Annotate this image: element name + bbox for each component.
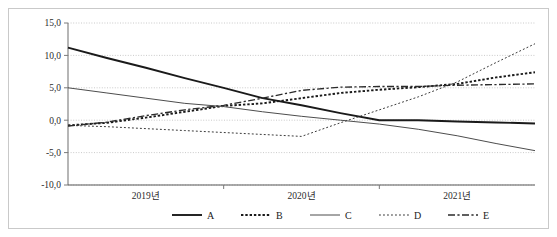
y-tick-label: -5,0	[46, 148, 61, 158]
y-tick-label: 15,0	[44, 18, 61, 28]
legend-label-b: B	[276, 210, 283, 221]
x-tick-label: 2020년	[288, 191, 316, 201]
series-group	[68, 44, 535, 151]
gridlines: 15,010,05,00,0-5,0-10,0	[41, 18, 535, 190]
legend-label-c: C	[345, 210, 352, 221]
y-tick-label: 5,0	[49, 83, 61, 93]
x-tick-label: 2021년	[443, 191, 471, 201]
legend-label-d: D	[414, 210, 421, 221]
x-axis-ticks: 2019년2020년2021년	[132, 185, 471, 201]
legend-label-e: E	[483, 210, 489, 221]
legend-label-a: A	[207, 210, 215, 221]
axes	[68, 23, 535, 185]
chart-figure: 15,010,05,00,0-5,0-10,02019년2020년2021년AB…	[0, 0, 557, 237]
chart-frame: 15,010,05,00,0-5,0-10,02019년2020년2021년AB…	[8, 8, 549, 229]
y-tick-label: 10,0	[44, 51, 61, 61]
y-tick-label: 0,0	[49, 116, 61, 126]
series-line-a	[68, 48, 535, 124]
y-tick-label: -10,0	[41, 180, 61, 190]
chart-legend: ABCDE	[172, 210, 489, 221]
plot-area: 15,010,05,00,0-5,0-10,02019년2020년2021년AB…	[9, 9, 550, 230]
line-chart-svg: 15,010,05,00,0-5,0-10,02019년2020년2021년AB…	[9, 9, 550, 230]
x-tick-label: 2019년	[132, 191, 160, 201]
